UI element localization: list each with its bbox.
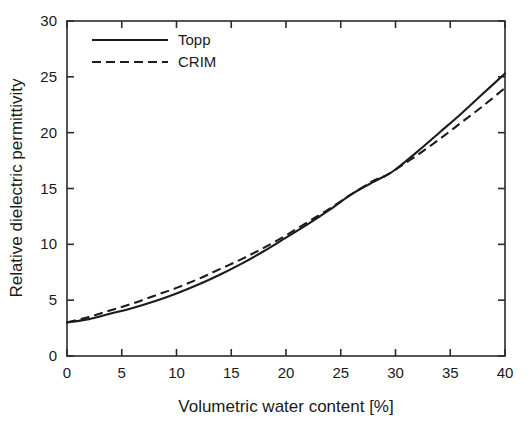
y-tick-label: 15 — [40, 180, 57, 197]
y-tick-label: 25 — [40, 68, 57, 85]
y-tick-label: 10 — [40, 235, 57, 252]
x-tick-label: 10 — [168, 364, 185, 381]
x-axis-label: Volumetric water content [%] — [178, 397, 393, 416]
x-tick-label: 15 — [223, 364, 240, 381]
x-tick-label: 20 — [278, 364, 295, 381]
y-axis-label: Relative dielectric permittivity — [7, 78, 26, 298]
x-tick-label: 25 — [332, 364, 349, 381]
x-tick-label: 5 — [118, 364, 126, 381]
x-tick-label: 0 — [63, 364, 71, 381]
x-tick-label: 30 — [387, 364, 404, 381]
x-tick-label: 40 — [497, 364, 514, 381]
y-tick-label: 30 — [40, 12, 57, 29]
y-tick-label: 20 — [40, 124, 57, 141]
x-tick-label: 35 — [442, 364, 459, 381]
legend-label-crim: CRIM — [178, 53, 216, 70]
y-tick-label: 5 — [49, 291, 57, 308]
permittivity-chart: 0510152025303540 051015202530 Topp CRIM … — [0, 0, 531, 428]
y-tick-label: 0 — [49, 347, 57, 364]
legend-label-topp: Topp — [178, 31, 211, 48]
